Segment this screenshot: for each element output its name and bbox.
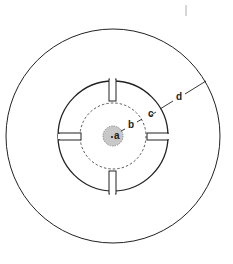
center-dot: [111, 136, 113, 138]
spoke-top: [109, 79, 116, 101]
label-c: c: [148, 108, 154, 119]
concentric-circle-diagram: a b c d: [0, 0, 233, 264]
spoke-bottom: [109, 171, 116, 194]
spoke-left: [59, 133, 81, 140]
label-a: a: [114, 130, 120, 141]
label-d: d: [176, 91, 182, 102]
spoke-right: [147, 133, 168, 140]
core-circle: [103, 126, 123, 146]
label-b: b: [128, 119, 134, 130]
